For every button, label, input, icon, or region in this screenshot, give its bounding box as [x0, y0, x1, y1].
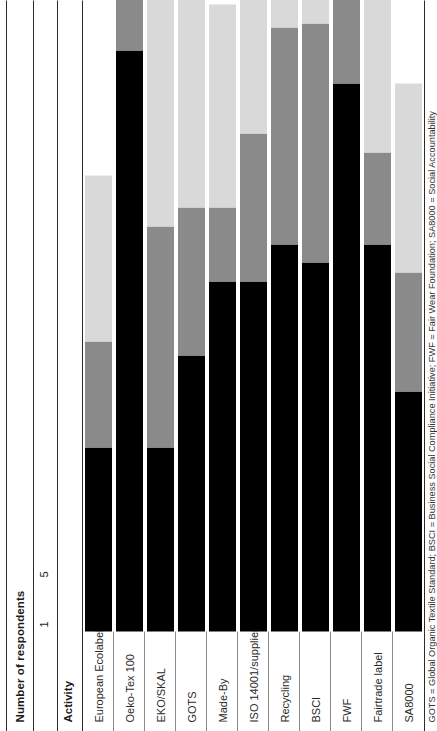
category-label: SA8000 — [404, 683, 415, 722]
bar-stack — [302, 32, 329, 631]
bar-segment-series-3 — [178, 0, 205, 207]
bar-segment-series-1 — [209, 281, 236, 631]
bar-segment-series-3 — [240, 0, 267, 133]
bar-segment-series-2 — [364, 152, 391, 244]
bar-segment-series-3 — [85, 175, 112, 341]
bar-group — [178, 32, 205, 631]
bar-stack — [147, 32, 174, 631]
category-label: GOTS — [187, 691, 198, 722]
chart-row: FWF — [331, 0, 362, 731]
bar-segment-series-1 — [85, 447, 112, 631]
bar-stack — [364, 32, 391, 631]
chart-row: Fairtrade label — [362, 0, 393, 731]
bar-segment-series-2 — [271, 27, 298, 244]
table-header-rule-2 — [57, 0, 58, 731]
chart-row: Recycling — [269, 0, 300, 731]
bar-segment-series-2 — [178, 207, 205, 354]
bar-segment-series-1 — [395, 391, 422, 631]
bar-segment-series-1 — [147, 447, 174, 631]
bar-segment-series-3 — [364, 0, 391, 152]
bar-group — [395, 32, 422, 631]
chart-row: SA8000 — [393, 0, 424, 731]
bar-segment-series-2 — [209, 207, 236, 281]
bar-segment-series-3 — [147, 0, 174, 226]
bar-segment-series-2 — [85, 341, 112, 447]
bar-segment-series-1 — [271, 244, 298, 631]
bar-segment-series-3 — [302, 0, 329, 23]
bar-group — [333, 32, 360, 631]
bar-segment-series-3 — [271, 0, 298, 27]
bar-stack — [240, 32, 267, 631]
bar-segment-series-3 — [395, 83, 422, 272]
bar-segment-series-2 — [240, 133, 267, 280]
bar-group — [271, 32, 298, 631]
bar-stack — [271, 32, 298, 631]
bar-group — [364, 32, 391, 631]
bar-segment-series-1 — [302, 262, 329, 631]
chart-row: Oeko-Tex 100 — [114, 0, 145, 731]
bar-stack — [333, 32, 360, 631]
bar-stack — [209, 32, 236, 631]
bar-segment-series-1 — [178, 355, 205, 631]
category-label: FWF — [342, 698, 353, 722]
bar-segment-series-2 — [302, 23, 329, 263]
chart-row: ISO 14001/suppliers — [238, 0, 269, 731]
bar-segment-series-1 — [116, 50, 143, 631]
category-label: Fairtrade label — [373, 652, 384, 722]
category-header: Activity — [62, 680, 74, 722]
tick-label-5: 5 — [38, 571, 50, 577]
category-label: EKO/SKAL — [156, 668, 167, 722]
category-label: BSCI — [311, 696, 322, 722]
bar-segment-series-1 — [364, 244, 391, 631]
category-label: ISO 14001/suppliers — [249, 622, 260, 722]
category-label: Oeko-Tex 100 — [125, 654, 136, 722]
chart-row: European Ecolabel — [83, 0, 114, 731]
axis-title: Number of respondents — [14, 590, 26, 722]
bar-group — [240, 32, 267, 631]
bar-segment-series-1 — [240, 281, 267, 631]
category-label: Made-By — [218, 678, 229, 722]
bar-segment-series-2 — [147, 226, 174, 447]
category-label: European Ecolabel — [94, 629, 105, 722]
bar-stack — [85, 32, 112, 631]
bar-segment-series-2 — [116, 0, 143, 50]
chart-row: EKO/SKAL — [145, 0, 176, 731]
table-top-rule — [6, 0, 7, 731]
bar-group — [209, 32, 236, 631]
bar-group — [147, 32, 174, 631]
table-bottom-rule — [424, 0, 425, 731]
figure-footnote: GOTS = Global Organic Textile Standard; … — [427, 111, 437, 722]
table-header-rule-1 — [33, 0, 34, 731]
bar-stack — [395, 32, 422, 631]
bar-segment-series-2 — [333, 0, 360, 83]
bar-group — [302, 32, 329, 631]
chart-row: GOTS — [176, 0, 207, 731]
bar-segment-series-1 — [333, 83, 360, 631]
bar-stack — [116, 32, 143, 631]
chart-row: BSCI — [300, 0, 331, 731]
bar-stack — [178, 32, 205, 631]
bar-segment-series-2 — [395, 272, 422, 392]
bar-segment-series-3 — [209, 4, 236, 207]
bar-group — [85, 32, 112, 631]
chart-row: Made-By — [207, 0, 238, 731]
tick-label-1: 1 — [38, 621, 50, 627]
category-label: Recycling — [280, 674, 291, 722]
bar-group — [116, 32, 143, 631]
